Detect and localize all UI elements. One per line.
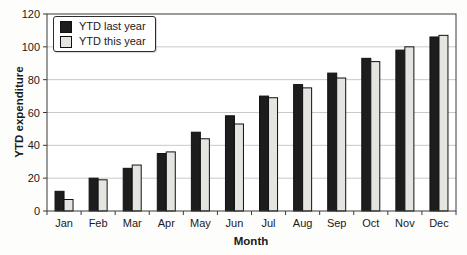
ytd-expenditure-bar-chart: 020406080100120JanFebMarAprMayJunJulAugS… <box>0 0 467 255</box>
bar-ytd-last-year-apr <box>157 154 166 211</box>
y-axis-title: YTD expenditure <box>13 66 25 157</box>
x-tick-label-jul: Jul <box>262 217 276 229</box>
x-tick-label-oct: Oct <box>362 217 379 229</box>
y-tick-label-0: 0 <box>34 205 40 217</box>
bar-ytd-this-year-may <box>200 139 209 211</box>
bar-ytd-this-year-sep <box>337 78 346 211</box>
x-tick-label-jun: Jun <box>226 217 244 229</box>
y-tick-label-20: 20 <box>28 172 40 184</box>
bar-ytd-last-year-nov <box>396 50 405 211</box>
bar-ytd-last-year-jan <box>55 191 64 211</box>
bar-ytd-this-year-feb <box>98 180 107 211</box>
bar-ytd-this-year-jul <box>269 98 278 211</box>
legend-swatch-last-year <box>60 21 72 33</box>
x-tick-label-jan: Jan <box>55 217 73 229</box>
bar-ytd-last-year-feb <box>89 178 98 211</box>
bar-ytd-last-year-aug <box>294 85 303 211</box>
bar-ytd-last-year-may <box>191 132 200 211</box>
legend: YTD last year YTD this year <box>53 16 156 52</box>
y-tick-label-80: 80 <box>28 74 40 86</box>
bar-ytd-this-year-oct <box>371 62 380 211</box>
bar-ytd-last-year-oct <box>362 58 371 211</box>
y-tick-label-100: 100 <box>22 41 40 53</box>
x-tick-label-feb: Feb <box>89 217 108 229</box>
bar-ytd-last-year-jul <box>260 96 269 211</box>
legend-entry-this-year: YTD this year <box>60 35 146 48</box>
bar-ytd-this-year-aug <box>303 88 312 211</box>
bar-ytd-this-year-nov <box>405 47 414 211</box>
bar-ytd-this-year-apr <box>166 152 175 211</box>
bar-ytd-this-year-dec <box>439 35 448 211</box>
bar-ytd-this-year-jun <box>234 124 243 211</box>
x-tick-label-dec: Dec <box>429 217 449 229</box>
x-tick-label-aug: Aug <box>293 217 313 229</box>
legend-swatch-this-year <box>60 36 72 48</box>
x-axis-title: Month <box>234 235 268 247</box>
bar-ytd-this-year-jan <box>64 200 73 211</box>
y-tick-label-120: 120 <box>22 8 40 20</box>
y-tick-label-60: 60 <box>28 107 40 119</box>
y-tick-label-40: 40 <box>28 139 40 151</box>
x-tick-label-may: May <box>190 217 211 229</box>
x-tick-label-sep: Sep <box>327 217 347 229</box>
x-tick-label-apr: Apr <box>158 217 175 229</box>
bar-ytd-last-year-sep <box>328 73 337 211</box>
legend-entry-last-year: YTD last year <box>60 20 146 33</box>
bar-ytd-last-year-jun <box>225 116 234 211</box>
bar-ytd-this-year-mar <box>132 165 141 211</box>
x-tick-label-mar: Mar <box>123 217 142 229</box>
x-tick-label-nov: Nov <box>395 217 415 229</box>
bar-ytd-last-year-mar <box>123 168 132 211</box>
legend-label-this-year: YTD this year <box>79 35 146 48</box>
bar-ytd-last-year-dec <box>430 37 439 211</box>
legend-label-last-year: YTD last year <box>79 20 146 33</box>
